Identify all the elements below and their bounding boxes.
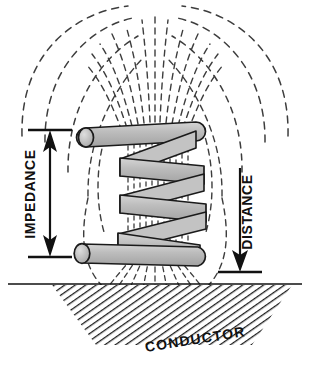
coil-lead-bottom-cap <box>74 244 90 264</box>
eddy-current-coil-diagram: IMPEDANCE DISTANCE CONDUCTOR <box>0 0 310 368</box>
impedance-label: IMPEDANCE <box>22 149 38 238</box>
diagram-canvas: IMPEDANCE DISTANCE CONDUCTOR <box>0 0 310 368</box>
coil-lead-bottom <box>74 244 205 266</box>
coil-lead-top-cap <box>79 128 94 147</box>
distance-label: DISTANCE <box>239 174 255 249</box>
